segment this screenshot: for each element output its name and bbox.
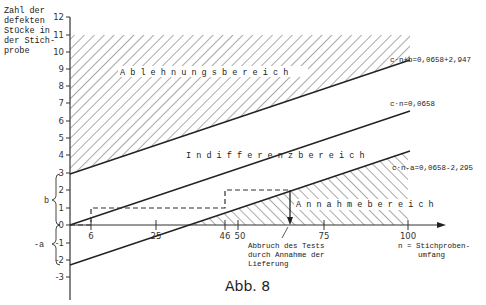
middle-line-label: c·n=0,0658 [390,100,435,108]
svg-text:Abbruch des Tests: Abbruch des Tests [248,242,325,250]
svg-text:50: 50 [235,231,246,241]
abbruch-annotation: Abbruch des Tests durch Annahme der Lief… [248,242,325,268]
svg-text:Lieferung: Lieferung [248,260,289,268]
minus-a-label: -a [34,240,44,250]
svg-text:durch Annahme der: durch Annahme der [248,251,325,259]
svg-text:1: 1 [59,203,64,213]
lower-line-label: c·n-a=0,0658-2,295 [392,164,474,172]
svg-text:75: 75 [319,231,330,241]
upper-line-label: c·n+b=0,0658+2,947 [390,56,471,64]
acceptance-region-label: A n n a h m e b e r e i c h [296,200,434,210]
svg-text:6: 6 [88,231,93,241]
b-label: b [44,196,49,206]
svg-text:7: 7 [59,98,64,108]
b-brace [52,174,60,225]
abbruch-pointer [282,227,288,238]
y-tick-labels: 12 11 10 9 8 7 6 5 4 3 2 1 0 -1 -2 -3 [53,12,64,282]
x-axis-arrow-icon [437,222,446,228]
svg-text:n = Stichproben-: n = Stichproben- [398,242,470,250]
svg-text:4: 4 [59,150,64,160]
svg-text:12: 12 [53,12,64,22]
svg-text:-3: -3 [56,272,64,282]
svg-text:100: 100 [400,231,416,241]
svg-text:8: 8 [59,81,64,91]
svg-text:5: 5 [59,133,64,143]
svg-text:3: 3 [59,168,64,178]
indifference-region-label: I n d i f f e r e n z b e r e i c h [186,151,365,161]
svg-text:umfang: umfang [418,251,445,259]
svg-text:46: 46 [220,231,231,241]
svg-text:11: 11 [53,30,64,40]
svg-text:10: 10 [53,47,64,57]
x-axis-label: n = Stichproben- umfang [398,242,470,259]
svg-text:-1: -1 [56,238,64,248]
rejection-region-label: A b l e h n u n g s b e r e i c h [120,68,288,78]
x-tick-labels: 6 25 46 50 75 100 [88,231,416,241]
svg-text:6: 6 [59,116,64,126]
figure-caption: Abb. 8 [225,278,270,294]
svg-text:2: 2 [59,185,64,195]
svg-text:9: 9 [59,64,64,74]
chart: 12 11 10 9 8 7 6 5 4 3 2 1 0 -1 -2 -3 6 … [0,0,486,305]
